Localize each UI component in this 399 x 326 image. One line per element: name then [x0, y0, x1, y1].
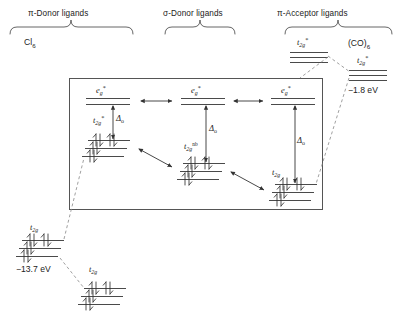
co-t2g-star-upper-line-3 — [290, 62, 328, 63]
pi-acceptor-eg-line-1 — [271, 98, 315, 99]
sigma-ligand-t2g-line-3 — [78, 304, 120, 305]
sigma-donor-t2g-line-2 — [180, 171, 222, 172]
pi-donor-t2g-sup: * — [101, 114, 104, 121]
pi-acceptor-t2g-sub: 2g — [274, 172, 280, 178]
sigma-donor-group-label: σ-Donor ligands — [163, 9, 223, 18]
sigma-donor-eg-line-1 — [181, 98, 225, 99]
pi-donor-eg-sup: * — [103, 84, 106, 91]
dash-co-upper-to-co — [328, 56, 350, 72]
carbonyl-formula-sub: 6 — [367, 43, 370, 50]
pi-acceptor-t2g-line-2 — [272, 192, 314, 193]
pi-donor-group-label: π-Donor ligands — [28, 9, 88, 18]
pi-donor-eg-line-1 — [86, 98, 130, 99]
chloride-t2g-line-1 — [22, 240, 64, 241]
co-t2g-star-line-1 — [349, 70, 387, 71]
co-t2g-star-label: t2g* — [357, 54, 368, 66]
pi-donor-t2g-line-2 — [85, 148, 127, 149]
sigma-donor-t2g-line-3 — [177, 179, 219, 180]
co-t2g-star-sup: * — [365, 54, 368, 61]
pi-acceptor-t2g-line-3 — [269, 200, 311, 201]
pi-acceptor-eg-label: eg* — [281, 84, 291, 96]
chloride-t2g-line-2 — [19, 248, 61, 249]
sigma-donor-brace — [165, 20, 235, 34]
co-t2g-star-upper-line-2 — [290, 57, 328, 58]
pi-donor-t2g-line-3 — [82, 156, 124, 157]
sigma-donor-t2g-label: t2gnb — [184, 141, 198, 152]
pi-donor-delta-sub: o — [121, 118, 124, 124]
chloride-energy-label: −13.7 eV — [16, 264, 51, 274]
co-t2g-star-line-3 — [349, 80, 387, 81]
sigma-donor-eg-label: eg* — [191, 84, 201, 96]
carbonyl-formula-text: (CO) — [348, 38, 367, 48]
pi-donor-t2g-label: t2g* — [93, 114, 104, 126]
sigma-donor-delta-label: Δo — [209, 123, 217, 134]
sigma-ligand-t2g-sub: 2g — [91, 269, 97, 275]
chloride-t2g-line-3 — [16, 256, 58, 257]
pi-acceptor-t2g-line-1 — [275, 184, 317, 185]
pi-donor-delta-label: Δo — [116, 113, 124, 124]
chloride-formula-sub: 6 — [32, 42, 35, 49]
pi-acceptor-group-label: π-Acceptor ligands — [277, 9, 348, 18]
pi-donor-brace — [10, 20, 133, 34]
pi-donor-t2g-line-1 — [88, 140, 130, 141]
sigma-donor-t2g-sup: nb — [192, 141, 197, 147]
group-braces — [10, 20, 392, 34]
co-t2g-star-upper-line-1 — [290, 52, 328, 53]
sigma-donor-delta-sub: o — [214, 128, 217, 134]
sigma-ligand-t2g-line-1 — [84, 288, 126, 289]
sigma-ligand-t2g-line-2 — [81, 296, 123, 297]
pi-acceptor-eg-line-2 — [271, 104, 315, 105]
pi-donor-eg-line-2 — [86, 104, 130, 105]
chloride-t2g-sub: 2g — [32, 227, 38, 233]
pi-acceptor-brace — [285, 20, 392, 34]
chloride-t2g-label: t2g — [30, 223, 38, 233]
carbonyl-formula: (CO)6 — [348, 38, 370, 50]
sigma-donor-eg-line-2 — [181, 104, 225, 105]
co-energy-label: −1.8 eV — [348, 85, 378, 95]
pi-acceptor-delta-sub: o — [302, 140, 305, 146]
sigma-donor-eg-sup: * — [198, 84, 201, 91]
sigma-donor-t2g-line-1 — [183, 163, 225, 164]
co-t2g-star-upper-label: t2g* — [297, 36, 308, 48]
pi-acceptor-t2g-label: t2g — [272, 166, 280, 178]
pi-acceptor-eg-sup: * — [288, 84, 291, 91]
dash-co-upper-to-box — [300, 57, 328, 78]
sigma-ligand-t2g-label: t2g — [89, 265, 97, 275]
chloride-formula: Cl6 — [24, 37, 36, 49]
pi-acceptor-delta-label: Δo — [297, 135, 305, 146]
chloride-formula-text: Cl — [24, 37, 32, 47]
dash-cl-to-sigma — [60, 258, 84, 288]
co-t2g-star-line-2 — [349, 75, 387, 76]
pi-donor-eg-label: eg* — [96, 84, 106, 96]
co-t2g-star-upper-sup: * — [305, 36, 308, 43]
